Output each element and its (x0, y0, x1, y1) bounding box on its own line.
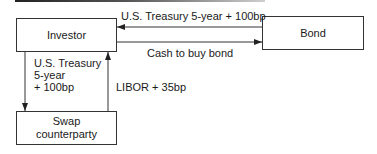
edge-label-investor-to-bond: Cash to buy bond (147, 47, 233, 59)
edge-label-bond-to-investor: U.S. Treasury 5-year + 100bp (121, 10, 266, 22)
edge-label-swap-to-investor: LIBOR + 35bp (116, 81, 186, 93)
swap-label-line-1: Swap (36, 115, 97, 128)
swap-label-line-2: counterparty (36, 128, 97, 141)
investor-label: Investor (47, 29, 86, 42)
edge-label-line-2: 5-year (34, 69, 101, 81)
investor-node: Investor (16, 18, 117, 52)
edge-label-line-1: U.S. Treasury (34, 57, 101, 69)
edge-label-line-3: + 100bp (34, 81, 101, 93)
top-rule (15, 0, 265, 2)
swap-counterparty-node: Swap counterparty (16, 111, 117, 145)
edge-label-investor-to-swap: U.S. Treasury 5-year + 100bp (34, 57, 101, 93)
bond-node: Bond (262, 16, 364, 50)
bond-label: Bond (300, 27, 326, 40)
